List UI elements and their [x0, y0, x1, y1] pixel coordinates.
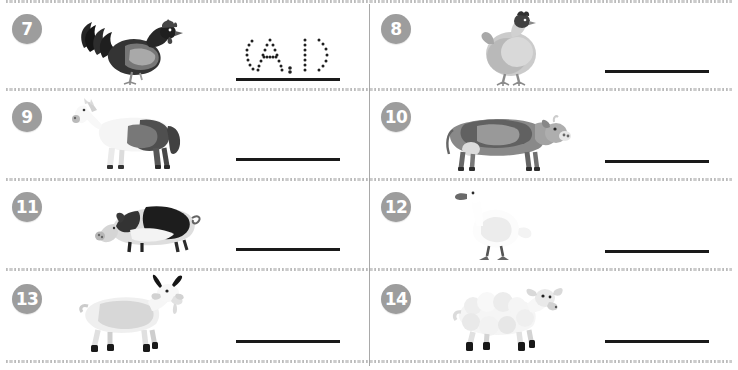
item-number-label: 12 [385, 197, 408, 217]
worksheet-page: 7 [0, 0, 738, 370]
answer-line-9[interactable] [236, 158, 340, 161]
item-number-badge-7: 7 [12, 14, 42, 44]
horse-photo [68, 96, 188, 174]
item-number-badge-8: 8 [381, 14, 411, 44]
item-number-label: 14 [385, 289, 408, 309]
answer-line-7[interactable] [236, 78, 340, 81]
worksheet-cell-7[interactable]: 7 [0, 0, 369, 90]
item-number-label: 13 [16, 289, 39, 309]
item-number-badge-9: 9 [12, 102, 42, 132]
worksheet-cell-9[interactable]: 9 [0, 90, 369, 180]
hen-photo [467, 8, 557, 88]
answer-line-8[interactable] [605, 70, 709, 73]
pig-photo [88, 194, 208, 256]
worksheet-cell-13[interactable]: 13 [0, 270, 369, 370]
item-number-badge-14: 14 [381, 284, 411, 314]
goat-photo [66, 274, 186, 354]
answer-line-13[interactable] [236, 340, 340, 343]
sheep-photo [443, 278, 563, 354]
worksheet-grid: 7 [0, 0, 738, 370]
answer-line-10[interactable] [605, 160, 709, 163]
worksheet-cell-12[interactable]: 12 [369, 180, 738, 270]
tracing-word-7[interactable] [243, 34, 335, 76]
worksheet-cell-14[interactable]: 14 [369, 270, 738, 370]
rooster-photo [70, 10, 190, 85]
cow-photo [437, 102, 572, 174]
duck-photo [451, 184, 551, 262]
item-number-badge-12: 12 [381, 192, 411, 222]
item-number-badge-10: 10 [381, 102, 411, 132]
worksheet-cell-10[interactable]: 10 [369, 90, 738, 180]
answer-line-12[interactable] [605, 250, 709, 253]
item-number-label: 8 [390, 19, 401, 39]
item-number-label: 11 [16, 197, 39, 217]
item-number-label: 7 [21, 19, 32, 39]
item-number-label: 9 [21, 107, 32, 127]
answer-line-11[interactable] [236, 248, 340, 251]
item-number-badge-11: 11 [12, 192, 42, 222]
item-number-badge-13: 13 [12, 284, 42, 314]
item-number-label: 10 [385, 107, 408, 127]
worksheet-cell-11[interactable]: 11 [0, 180, 369, 270]
answer-line-14[interactable] [605, 340, 709, 343]
worksheet-cell-8[interactable]: 8 [369, 0, 738, 90]
